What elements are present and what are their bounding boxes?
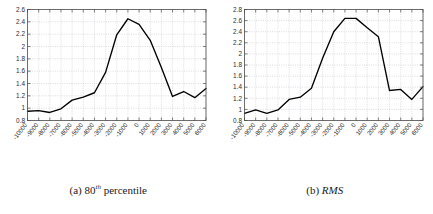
caption-a: (a) 80th percentile xyxy=(0,183,217,196)
y-axis-tick-label: 1.6 xyxy=(16,67,25,74)
y-axis-tick-label: 1.4 xyxy=(16,80,25,87)
caption-b-label: (b) xyxy=(306,184,319,196)
y-axis-tick-label: 2.6 xyxy=(233,17,242,24)
x-axis-tick-label: -1000 xyxy=(330,121,346,138)
y-axis-tick-label: 2 xyxy=(21,43,25,50)
caption-b-title: RMS xyxy=(322,184,343,196)
y-axis-tick-label: 2.6 xyxy=(16,6,25,13)
x-axis-tick-label: -1000 xyxy=(113,121,129,138)
plot-area-b: 0.811.21.41.61.822.22.42.62.8-10000-9000… xyxy=(217,0,433,166)
y-axis-tick-label: 1.8 xyxy=(233,61,242,68)
y-axis-tick-label: 2.4 xyxy=(233,28,242,35)
y-axis-tick-label: 1 xyxy=(21,104,25,111)
y-axis-tick-label: 1.4 xyxy=(233,83,242,90)
x-axis-tick-label: 0 xyxy=(132,121,140,128)
x-axis-tick-label: 6000 xyxy=(193,121,207,137)
y-axis-tick-label: 2.8 xyxy=(233,6,242,13)
y-axis-tick-label: 1.2 xyxy=(233,95,242,102)
line-chart-b: 0.811.21.41.61.822.22.42.62.8-10000-9000… xyxy=(217,0,433,166)
y-axis-tick-label: 1.2 xyxy=(16,92,25,99)
y-axis-tick-label: 2.4 xyxy=(16,18,25,25)
chart-panel-a: 0.811.21.41.61.822.22.42.6-10000-9000-80… xyxy=(0,0,217,214)
caption-a-label: (a) xyxy=(69,184,81,196)
y-axis-tick-label: 2.2 xyxy=(16,30,25,37)
y-axis-tick-label: 1 xyxy=(238,106,242,113)
plot-area-a: 0.811.21.41.61.822.22.42.6-10000-9000-80… xyxy=(0,0,217,166)
y-axis-tick-label: 2 xyxy=(238,50,242,57)
caption-a-superscript: th xyxy=(95,183,100,191)
figure-two-panel-charts: 0.811.21.41.61.822.22.42.6-10000-9000-80… xyxy=(0,0,433,214)
y-axis-tick-label: 1.6 xyxy=(233,72,242,79)
x-axis-tick-label: 0 xyxy=(349,121,357,128)
chart-panel-b: 0.811.21.41.61.822.22.42.62.8-10000-9000… xyxy=(217,0,433,214)
x-axis-tick-label: 6000 xyxy=(409,121,423,137)
line-chart-a: 0.811.21.41.61.822.22.42.6-10000-9000-80… xyxy=(0,0,217,166)
caption-b: (b) RMS xyxy=(217,183,433,196)
caption-a-rest: percentile xyxy=(104,184,147,196)
caption-a-title: 80 xyxy=(84,184,95,196)
y-axis-tick-label: 2.2 xyxy=(233,39,242,46)
y-axis-tick-label: 1.8 xyxy=(16,55,25,62)
